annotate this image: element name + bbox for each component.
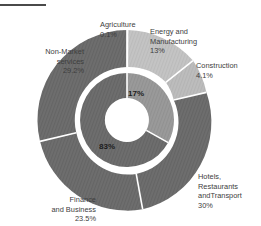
inner-ring-label-83: 83% (99, 142, 115, 151)
label-construction-name: Construction (196, 61, 238, 70)
label-finance-value: 23.5% (18, 214, 96, 223)
label-energy-name: Energy and Manufacturing (150, 27, 197, 45)
label-construction-value: 4.1% (196, 71, 258, 80)
label-agriculture-value: 0.1% (100, 30, 148, 39)
label-nonmarket-value: 29.2% (6, 66, 84, 75)
label-construction: Construction 4.1% (196, 52, 258, 90)
label-finance-and-business: Finance and Business 23.5% (18, 186, 96, 226)
donut-chart: 17% 83% Agriculture 0.1% Energy and Manu… (0, 0, 261, 226)
label-hotels-restaurants-transport: Hotels, Restaurants andTransport 30% (198, 163, 260, 219)
label-hotels-value: 30% (198, 201, 260, 210)
donut-center-hole (106, 99, 149, 142)
label-nonmarket-name: Non-Market services (45, 47, 84, 65)
label-hotels-name: Hotels, Restaurants andTransport (198, 172, 242, 200)
label-non-market-services: Non-Market services 29.2% (6, 38, 84, 85)
label-agriculture-name: Agriculture (100, 20, 136, 29)
label-agriculture: Agriculture 0.1% (100, 11, 148, 49)
label-finance-name: Finance and Business (51, 195, 96, 213)
inner-ring-label-17: 17% (128, 89, 144, 98)
